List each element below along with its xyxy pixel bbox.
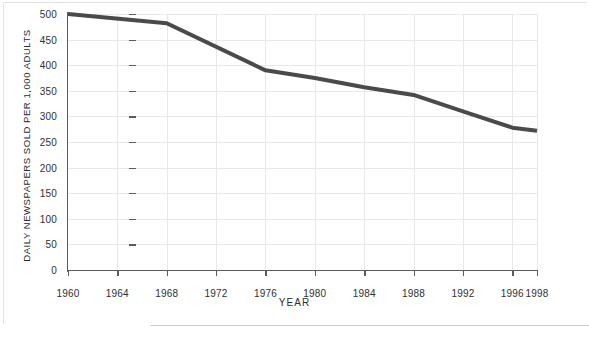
x-axis-title: YEAR [0, 297, 589, 308]
x-tick-mark [265, 270, 266, 276]
x-tick-mark [216, 270, 217, 276]
y-tick-label: 450 [40, 34, 57, 45]
x-tick-mark [414, 270, 415, 276]
page-frame-top-rule [3, 2, 587, 3]
y-tick-label: 50 [45, 239, 57, 250]
y-tick-label: 500 [40, 9, 57, 20]
x-tick-mark [315, 270, 316, 276]
gridline-vertical [537, 14, 538, 270]
y-tick-label: 0 [51, 265, 57, 276]
x-tick-mark [167, 270, 168, 276]
data-line [68, 14, 537, 131]
line-series-newspapers [68, 14, 537, 270]
x-tick-mark [117, 270, 118, 276]
y-axis-title: DAILY NEWSPAPERS SOLD PER 1,000 ADULTS [21, 21, 32, 271]
x-tick-mark [537, 270, 538, 276]
x-tick-mark [364, 270, 365, 276]
y-tick-label: 100 [40, 213, 57, 224]
plot-area: 050100150200250300350400450500 196019641… [68, 14, 537, 270]
x-tick-mark [68, 270, 69, 276]
y-tick-label: 200 [40, 162, 57, 173]
page-frame-bottom-rule [150, 325, 589, 326]
y-tick-label: 400 [40, 60, 57, 71]
y-tick-label: 350 [40, 85, 57, 96]
page-frame-left-rule [3, 2, 4, 324]
x-tick-mark [463, 270, 464, 276]
y-tick-label: 300 [40, 111, 57, 122]
chart-page: DAILY NEWSPAPERS SOLD PER 1,000 ADULTS 0… [0, 0, 589, 337]
y-tick-mark [129, 270, 136, 271]
y-tick-label: 250 [40, 137, 57, 148]
x-tick-mark [512, 270, 513, 276]
y-tick-label: 150 [40, 188, 57, 199]
